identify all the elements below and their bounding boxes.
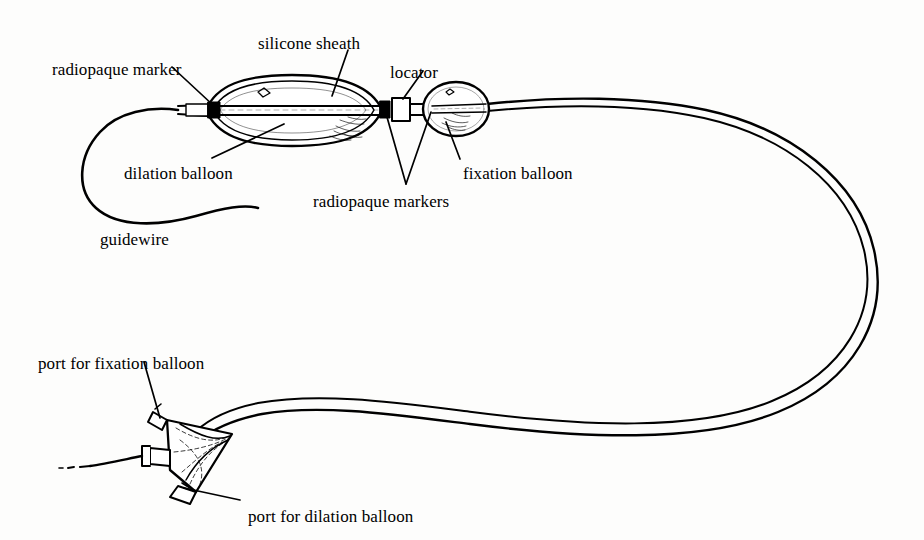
catheter-diagram [0,0,924,540]
label-port-for-dilation-balloon: port for dilation balloon [248,508,413,525]
locator-collar [392,98,410,121]
label-dilation-balloon: dilation balloon [124,165,233,182]
radiopaque-marker-distal [208,102,220,118]
port-guidewire-stub [142,446,170,466]
label-fixation-balloon: fixation balloon [463,165,573,182]
label-radiopaque-marker: radiopaque marker [52,61,182,78]
label-radiopaque-markers: radiopaque markers [313,193,449,210]
label-silicone-sheath: silicone sheath [258,35,360,52]
hub-tail-seg2 [68,467,74,468]
port-guidewire-barrel [150,448,170,466]
hub-tail-seg1 [80,466,90,467]
distal-collar [186,104,208,116]
label-locator: locator [390,64,438,81]
canvas-background [0,0,924,540]
label-guidewire: guidewire [100,231,169,248]
fixation-shaft-bottom [432,112,486,113]
fixation-balloon-assembly [423,82,489,136]
fixation-balloon-outline [423,82,489,136]
figure-root: silicone sheath radiopaque marker locato… [0,0,924,540]
label-port-for-fixation-balloon: port for fixation balloon [38,355,204,372]
